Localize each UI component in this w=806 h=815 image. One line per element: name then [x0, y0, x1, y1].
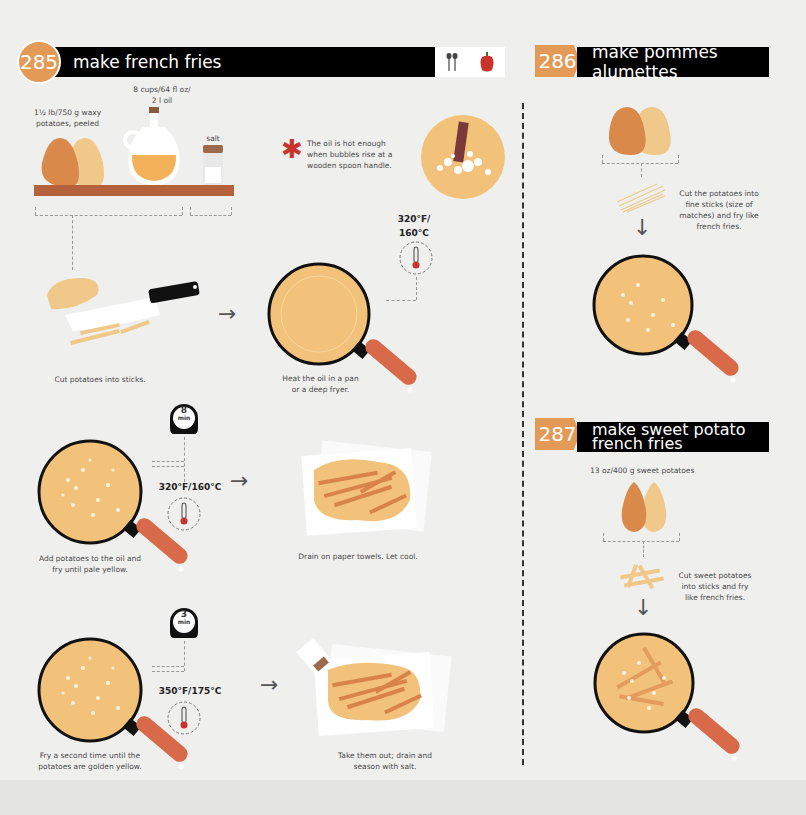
connector — [190, 207, 191, 215]
step-2-caption-1: Heat the oil in a pan — [268, 373, 373, 384]
section-287-step-3: like french fries. — [670, 592, 760, 603]
section-285-title: make french fries — [73, 52, 221, 72]
ingredient-oil-label-1: 8 cups/64 fl oz/ — [112, 84, 212, 95]
connector — [152, 466, 184, 467]
connector — [190, 215, 231, 216]
step-2-temp-1: 320°F/ — [389, 213, 439, 226]
draining-fries-illustration — [298, 440, 433, 535]
salt-shaker-illustration — [202, 145, 224, 185]
oil-bottle-illustration — [123, 105, 185, 185]
connector — [643, 541, 644, 557]
frying-pan-alumettes-illustration — [593, 255, 763, 395]
ingredient-salt-label: salt — [198, 133, 228, 144]
potatoes-illustration — [40, 135, 110, 187]
section-286-step-4: french fries. — [674, 221, 764, 232]
step-6-caption-2: season with salt. — [325, 761, 445, 772]
asterisk-icon: ✱ — [281, 136, 303, 162]
connector — [184, 437, 185, 482]
step-3-caption-2: fry until pale yellow. — [30, 564, 150, 575]
section-287-step-2: into sticks and fry — [670, 581, 760, 592]
step-6-caption-1: Take them out; drain and — [325, 750, 445, 761]
step-3-caption-1: Add potatoes to the oil and — [30, 553, 150, 564]
connector — [184, 641, 185, 671]
step-2-caption-2: or a deep fryer. — [268, 384, 373, 395]
arrow-down-icon: ↓ — [633, 217, 651, 239]
section-286-step-2: fine sticks (size of — [674, 199, 764, 210]
section-285-header: make french fries — [40, 47, 435, 77]
thermometer-icon — [398, 240, 434, 276]
timer-3-unit: min — [166, 619, 202, 625]
arrow-right-icon: → — [218, 303, 236, 325]
section-287-title-2: french fries — [592, 437, 683, 451]
connector — [416, 277, 417, 300]
connector — [182, 207, 183, 215]
section-287-step-1: Cut sweet potatoes — [670, 570, 760, 581]
matchstick-potatoes-illustration — [617, 182, 667, 214]
connector — [641, 163, 642, 177]
section-285-icon-box — [435, 47, 505, 77]
pepper-icon — [479, 52, 495, 72]
connector — [602, 155, 603, 163]
connector — [231, 207, 232, 215]
step-1-caption: Cut potatoes into sticks. — [40, 374, 160, 385]
connector — [679, 533, 680, 541]
sweet-potato-sticks-illustration — [618, 562, 666, 592]
knife-cutting-illustration — [45, 275, 205, 345]
section-285-number: 285 — [17, 40, 61, 84]
sweet-potatoes-illustration — [620, 480, 680, 532]
section-287-header: make sweet potato french fries — [577, 422, 769, 452]
ingredient-potatoes-label: 1½ lb/750 g waxy potatoes, peeled — [20, 107, 115, 129]
connector — [35, 215, 182, 216]
section-286-title: make pommes alumettes — [592, 42, 769, 82]
connector — [72, 215, 73, 270]
tip-line-1: The oil is hot enough — [307, 138, 407, 149]
connector — [152, 671, 184, 672]
bubbling-oil-illustration — [418, 112, 508, 202]
section-287-number: 287 — [535, 418, 580, 450]
arrow-right-icon: → — [260, 674, 278, 696]
section-287-ingredient: 13 oz/400 g sweet potatoes — [590, 465, 730, 476]
connector — [678, 155, 679, 163]
step-2-temp-2: 160°C — [389, 227, 439, 240]
connector — [603, 533, 604, 541]
section-286-step-1: Cut the potatoes into — [674, 188, 764, 199]
timer-8-value: 8 — [166, 406, 202, 414]
step-5-temp: 350°F/175°C — [150, 685, 230, 698]
spoons-icon — [445, 52, 459, 72]
potatoes-illustration — [607, 105, 677, 155]
step-5-caption-1: Fry a second time until the — [30, 750, 150, 761]
section-286-step-3: matches) and fry like — [674, 210, 764, 221]
connector — [35, 207, 36, 215]
tip-line-3: wooden spoon handle. — [307, 160, 407, 171]
connector — [152, 666, 184, 667]
connector — [602, 163, 678, 164]
section-divider — [522, 103, 524, 765]
shelf — [34, 185, 234, 196]
arrow-down-icon: ↓ — [634, 597, 652, 619]
timer-3-value: 3 — [166, 610, 202, 618]
section-286-number: 286 — [535, 45, 580, 77]
seasoning-fries-illustration — [298, 640, 458, 735]
connector — [386, 300, 416, 301]
arrow-right-icon: → — [230, 470, 248, 492]
connector — [603, 541, 679, 542]
step-3-temp: 320°F/160°C — [150, 481, 230, 494]
step-4-caption: Drain on paper towels. Let cool. — [288, 551, 428, 562]
section-286-header: make pommes alumettes — [577, 47, 769, 77]
thermometer-icon — [166, 700, 202, 736]
connector — [152, 461, 184, 462]
thermometer-icon — [166, 496, 202, 532]
timer-8-unit: min — [166, 415, 202, 421]
tip-line-2: when bubbles rise at a — [307, 149, 407, 160]
step-5-caption-2: potatoes are golden yellow. — [30, 761, 150, 772]
frying-pan-sweet-potato-illustration — [594, 633, 764, 773]
